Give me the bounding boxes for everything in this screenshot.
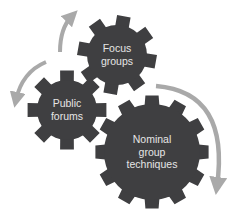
gear-label-focus: Focus	[103, 42, 132, 54]
gear-label-public: forums	[51, 110, 83, 122]
gear-label-focus: groups	[101, 55, 133, 67]
gear-label-nominal: techniques	[127, 158, 178, 170]
gear-label-nominal: group	[139, 146, 166, 158]
gear-label-nominal: Nominal	[133, 133, 172, 145]
gear-nominal: Nominalgrouptechniques	[95, 95, 208, 208]
arrow-to-focus	[60, 16, 72, 52]
gear-label-public: Public	[53, 97, 82, 109]
gear-public: Publicforums	[28, 71, 107, 150]
gear-cycle-diagram: FocusgroupsPublicforumsNominalgrouptechn…	[0, 0, 240, 216]
